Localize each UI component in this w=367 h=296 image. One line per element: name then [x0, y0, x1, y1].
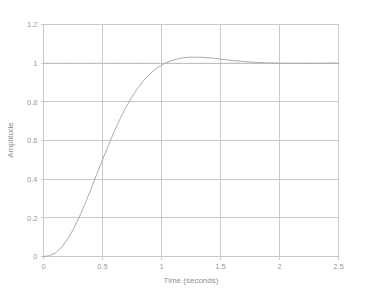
step-response-chart: 00.511.522.5 00.20.40.60.811.2 Time (sec… — [0, 0, 367, 296]
y-tick-label: 0.6 — [27, 136, 37, 145]
x-tick-label: 0 — [41, 262, 45, 271]
x-tick-label: 1 — [159, 262, 163, 271]
chart-background — [0, 0, 367, 296]
y-tick-label: 0.8 — [27, 98, 37, 107]
x-tick-label: 1.5 — [215, 262, 225, 271]
y-tick-label: 0.4 — [27, 175, 37, 184]
chart-canvas: 00.511.522.5 00.20.40.60.811.2 Time (sec… — [0, 0, 367, 296]
y-tick-label: 0.2 — [27, 214, 37, 223]
x-tick-label: 2 — [277, 262, 281, 271]
x-tick-label: 0.5 — [97, 262, 107, 271]
y-tick-label: 0 — [33, 252, 37, 261]
y-tick-label: 1 — [33, 59, 37, 68]
x-tick-label: 2.5 — [333, 262, 343, 271]
x-axis-title: Time (seconds) — [164, 276, 219, 285]
y-tick-label: 1.2 — [27, 20, 37, 29]
y-axis-title: Amplitude — [6, 122, 15, 158]
